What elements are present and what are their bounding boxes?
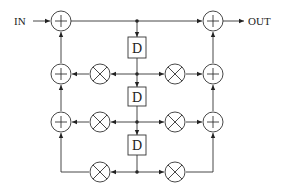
filter-block-diagram: IN OUT D D D xyxy=(0,0,284,189)
adder-left-1 xyxy=(51,11,71,31)
delay-block-3: D xyxy=(128,135,146,155)
multiplier-right-1 xyxy=(165,64,185,84)
multiplier-left-2 xyxy=(90,112,110,132)
svg-text:D: D xyxy=(132,138,142,153)
adder-left-2 xyxy=(51,64,71,84)
input-label: IN xyxy=(14,15,26,27)
adder-right-2 xyxy=(203,64,223,84)
multiplier-right-3 xyxy=(165,162,185,182)
row-line xyxy=(186,133,213,172)
adder-right-1 xyxy=(203,11,223,31)
svg-text:D: D xyxy=(132,90,142,105)
output-label: OUT xyxy=(248,15,271,27)
delay-block-1: D xyxy=(128,37,146,58)
multiplier-left-3 xyxy=(90,162,110,182)
multiplier-left-1 xyxy=(90,64,110,84)
row-line xyxy=(61,133,89,172)
adder-right-3 xyxy=(203,112,223,132)
multiplier-right-2 xyxy=(165,112,185,132)
svg-text:D: D xyxy=(132,41,142,56)
adder-left-3 xyxy=(51,112,71,132)
delay-block-2: D xyxy=(128,87,146,106)
